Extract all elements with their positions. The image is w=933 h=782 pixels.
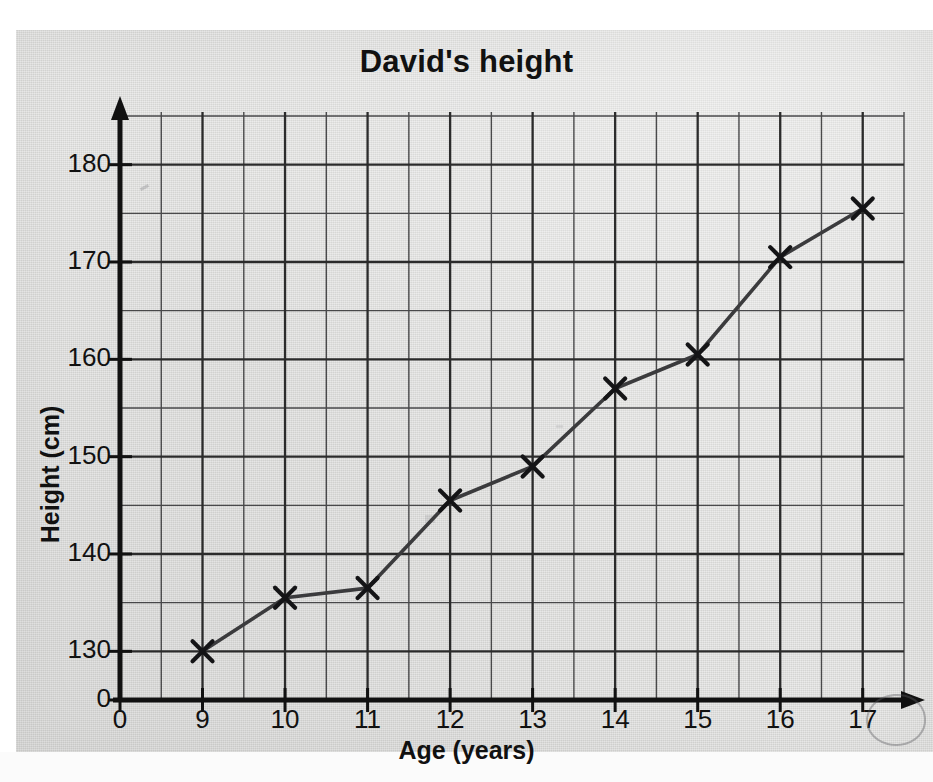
y-axis-title: Height (cm) — [36, 365, 65, 585]
x-axis-title: Age (years) — [0, 736, 933, 765]
x-axis-arrowhead — [901, 691, 925, 709]
x-tick-label: 14 — [585, 704, 645, 735]
x-tick-label: 9 — [173, 704, 233, 735]
x-tick-label: 11 — [338, 704, 398, 735]
worksheet-page: David's height Age (years) Height (cm) 0… — [0, 0, 933, 782]
y-tick-label: 180 — [68, 148, 111, 179]
x-tick-label: 15 — [668, 704, 728, 735]
y-tick-label: 150 — [68, 440, 111, 471]
chart-title: David's height — [0, 44, 933, 80]
x-tick-label: 17 — [833, 704, 893, 735]
y-tick-label: 170 — [68, 245, 111, 276]
y-axis-arrowhead — [111, 96, 129, 120]
y-tick-label: 140 — [68, 537, 111, 568]
x-tick-label: 10 — [255, 704, 315, 735]
x-tick-label: 12 — [420, 704, 480, 735]
line-chart: David's height Age (years) Height (cm) 0… — [0, 0, 933, 782]
grid-major-lines — [120, 112, 904, 700]
x-tick-label: 16 — [750, 704, 810, 735]
grid-minor-lines — [120, 112, 904, 700]
chart-canvas — [0, 0, 933, 782]
y-tick-label: 130 — [68, 634, 111, 665]
x-tick-label: 0 — [90, 704, 150, 735]
x-tick-label: 13 — [503, 704, 563, 735]
axis-tick-marks — [108, 165, 863, 712]
y-tick-label: 160 — [68, 342, 111, 373]
